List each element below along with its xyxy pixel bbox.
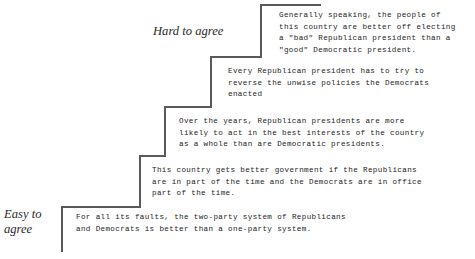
scale-item-3: Over the years, Republican presidents ar… — [179, 116, 473, 151]
anchor-label-easy-to-agree: Easy to agree — [4, 207, 41, 237]
scale-item-1: Generally speaking, the people of this c… — [279, 10, 475, 56]
scale-item-5: For all its faults, the two-party system… — [76, 212, 421, 235]
scale-item-2: Every Republican president has to try to… — [228, 66, 473, 101]
figure-caption-clipped — [0, 251, 475, 259]
anchor-label-hard-to-agree: Hard to agree — [153, 24, 223, 39]
figure-canvas: Hard to agree Easy to agree Generally sp… — [0, 0, 475, 259]
scale-item-4: This country gets better government if t… — [152, 165, 472, 200]
